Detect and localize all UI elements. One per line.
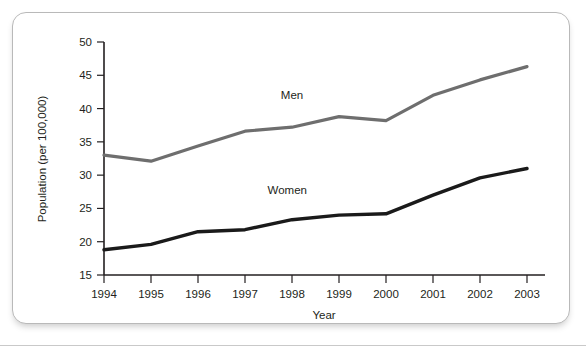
y-axis: 1520253035404550 Population (per 100,000… [36, 36, 104, 281]
series-label-men: Men [281, 89, 303, 101]
series-layer [104, 67, 527, 250]
x-tick-label: 2003 [514, 288, 540, 300]
y-tick-label: 45 [79, 69, 92, 81]
series-line-men [104, 67, 527, 162]
x-tick-label: 1996 [185, 288, 211, 300]
x-tick-label: 1995 [138, 288, 164, 300]
series-annotations: MenWomen [268, 89, 307, 196]
x-tick-label: 1997 [232, 288, 258, 300]
y-tick-label: 35 [79, 136, 92, 148]
y-tick-label: 50 [79, 36, 92, 48]
series-line-women [104, 169, 527, 250]
x-tick-label: 2002 [467, 288, 493, 300]
y-tick-label: 40 [79, 103, 92, 115]
x-tick-label: 2000 [373, 288, 399, 300]
y-tick-label: 20 [79, 236, 92, 248]
bottom-divider [0, 345, 586, 346]
x-axis: 1994199519961997199819992000200120022003… [91, 275, 545, 321]
x-tick-label: 2001 [420, 288, 446, 300]
x-tick-label: 1999 [326, 288, 352, 300]
x-tick-label: 1998 [279, 288, 305, 300]
x-axis-title: Year [312, 309, 335, 321]
y-axis-title: Population (per 100,000) [36, 96, 48, 223]
line-chart: 1520253035404550 Population (per 100,000… [0, 0, 586, 330]
series-label-women: Women [268, 184, 307, 196]
y-axis-ticks: 1520253035404550 [79, 36, 104, 281]
y-tick-label: 15 [79, 269, 92, 281]
y-tick-label: 30 [79, 169, 92, 181]
x-tick-label: 1994 [91, 288, 117, 300]
y-tick-label: 25 [79, 202, 92, 214]
x-axis-ticks: 1994199519961997199819992000200120022003 [91, 275, 540, 300]
